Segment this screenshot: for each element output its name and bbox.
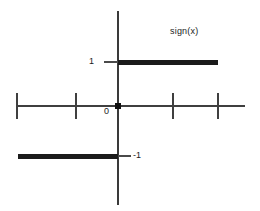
function-label: sign(x) [170,26,198,36]
x-axis-tick-2 [75,93,77,119]
curve-segment-negative [18,154,118,159]
x-axis-tick-4 [217,93,219,119]
sign-function-plot: 1 0 -1 sign(x) [0,0,260,211]
y-tick-label-minus-one: -1 [133,150,141,160]
origin-point-marker [115,103,121,109]
curve-segment-positive [118,60,218,65]
y-tick-label-zero: 0 [104,106,109,116]
x-axis [16,105,245,107]
y-tick-label-one: 1 [89,56,94,66]
y-axis-tick-positive-one [104,61,118,63]
x-axis-tick-1 [16,93,18,119]
x-axis-tick-3 [172,93,174,119]
y-axis-tick-negative-one [118,155,131,157]
